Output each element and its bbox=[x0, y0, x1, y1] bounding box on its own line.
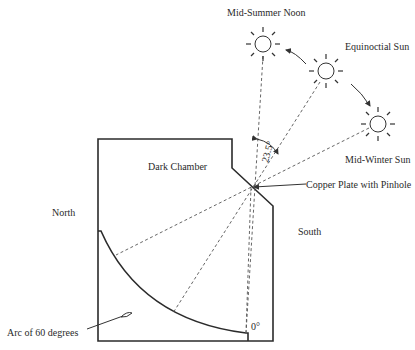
copper-plate-label: Copper Plate with Pinhole bbox=[306, 179, 412, 190]
dark-chamber-label: Dark Chamber bbox=[148, 161, 208, 172]
sun-path-arrow-lower bbox=[351, 84, 370, 106]
sun-path-arrow-upper bbox=[286, 50, 306, 64]
equinoctial-sun-icon bbox=[309, 54, 343, 88]
mid-winter-label: Mid-Winter Sun bbox=[345, 154, 410, 165]
south-label: South bbox=[298, 226, 321, 237]
meridian-arc bbox=[98, 231, 248, 341]
arc-pointer bbox=[87, 313, 132, 330]
zero-degree-label: 0° bbox=[251, 321, 260, 332]
mid-summer-label: Mid-Summer Noon bbox=[227, 7, 306, 18]
equinoctial-label: Equinoctial Sun bbox=[345, 41, 409, 52]
mid-winter-sun-icon bbox=[361, 107, 395, 141]
light-rays bbox=[116, 56, 369, 333]
angle-label: 23.5° bbox=[259, 140, 275, 164]
camera-obscura-diagram: 23.5° bbox=[0, 0, 415, 350]
mid-summer-sun-icon bbox=[246, 27, 280, 61]
copper-plate-pointer bbox=[254, 184, 306, 187]
arc-label: Arc of 60 degrees bbox=[7, 327, 78, 338]
north-label: North bbox=[52, 207, 75, 218]
